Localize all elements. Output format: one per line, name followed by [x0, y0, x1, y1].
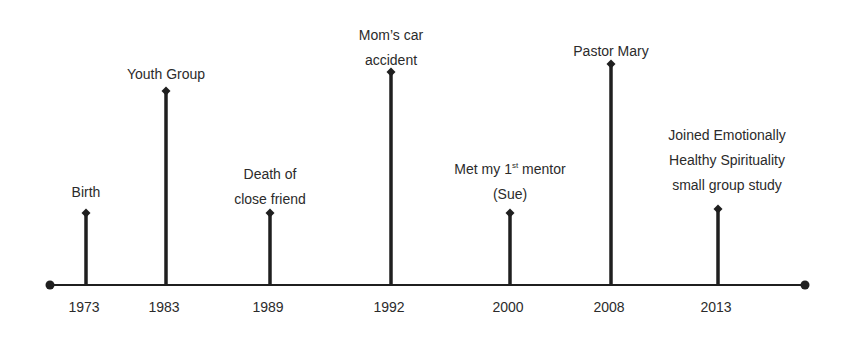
event-label-line: Mom’s car	[359, 23, 423, 48]
event-label-line: Death of	[234, 162, 306, 187]
timeline-axis	[46, 281, 810, 290]
year-label-1992: 1992	[373, 298, 404, 316]
axis-end-dot-icon	[801, 281, 810, 290]
timeline-stems	[82, 60, 723, 286]
year-label-1989: 1989	[252, 298, 283, 316]
axis-start-dot-icon	[46, 281, 55, 290]
event-label-line: accident	[359, 48, 423, 73]
event-label-2000: Met my 1st mentor(Sue)	[454, 157, 565, 207]
year-label-1983: 1983	[148, 298, 179, 316]
event-marker-diamond-icon	[714, 205, 723, 214]
event-label-line: Healthy Spirituality	[668, 148, 786, 173]
event-label-line: Joined Emotionally	[668, 123, 786, 148]
event-label-line: Met my 1st mentor	[454, 157, 565, 182]
event-label-1973: Birth	[72, 180, 101, 205]
event-marker-diamond-icon	[82, 209, 91, 218]
event-label-line: (Sue)	[454, 182, 565, 207]
year-label-1973: 1973	[68, 298, 99, 316]
event-label-line: small group study	[668, 173, 786, 198]
event-marker-diamond-icon	[506, 209, 515, 218]
year-label-2000: 2000	[492, 298, 523, 316]
event-label-1992: Mom’s caraccident	[359, 23, 423, 73]
event-label-2008: Pastor Mary	[573, 39, 648, 64]
event-label-1989: Death ofclose friend	[234, 162, 306, 212]
year-label-2008: 2008	[593, 298, 624, 316]
event-label-1983: Youth Group	[127, 62, 205, 87]
year-label-2013: 2013	[700, 298, 731, 316]
event-label-line: close friend	[234, 187, 306, 212]
event-label-line: Youth Group	[127, 62, 205, 87]
event-label-2013: Joined EmotionallyHealthy Spiritualitysm…	[668, 123, 786, 198]
event-label-line: Pastor Mary	[573, 39, 648, 64]
event-label-line: Birth	[72, 180, 101, 205]
event-marker-diamond-icon	[162, 87, 171, 96]
